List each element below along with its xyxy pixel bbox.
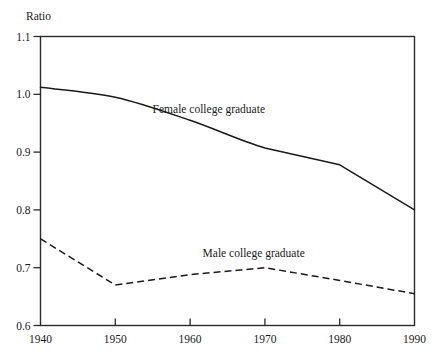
series-label-male: Male college graduate [203, 247, 305, 260]
series-label-female: Female college graduate [153, 103, 265, 116]
x-tick-label-1980: 1980 [328, 333, 351, 345]
y-tick-label-0.8: 0.8 [16, 204, 31, 216]
y-tick-label-0.7: 0.7 [16, 262, 31, 274]
chart-background [0, 0, 439, 364]
chart-container: Ratio 0.60.70.80.91.01.1 194019501960197… [0, 0, 439, 364]
x-tick-label-1970: 1970 [253, 333, 276, 345]
line-chart: Ratio 0.60.70.80.91.01.1 194019501960197… [0, 0, 439, 364]
y-axis-title: Ratio [26, 10, 51, 22]
x-tick-label-1950: 1950 [104, 333, 127, 345]
y-tick-label-0.6: 0.6 [16, 320, 31, 332]
x-tick-label-1960: 1960 [179, 333, 202, 345]
y-tick-label-1.1: 1.1 [16, 31, 31, 43]
y-tick-label-1.0: 1.0 [16, 88, 31, 100]
x-tick-label-1990: 1990 [403, 333, 426, 345]
x-tick-label-1940: 1940 [29, 333, 52, 345]
y-tick-label-0.9: 0.9 [16, 146, 31, 158]
